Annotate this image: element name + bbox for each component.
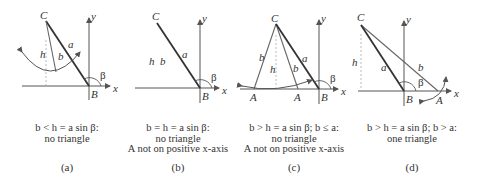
point-b-label: B (91, 88, 98, 100)
point-c-label: C (357, 11, 365, 23)
side-b-label: b (418, 61, 424, 73)
point-b-label: B (406, 93, 413, 105)
panel-label-a: (a) (61, 161, 73, 173)
point-a1-label: A (249, 91, 257, 103)
angle-beta-label: β (330, 72, 336, 84)
caption-c: b > h = a sin β; b ≤ a: no triangle A no… (244, 123, 344, 155)
panel-c: C B A A a b b h y x β (240, 12, 346, 104)
side-b2-label: b (293, 62, 299, 74)
side-a-label: a (302, 52, 308, 64)
side-b1-label: b (259, 51, 265, 63)
height-h-label: h (149, 55, 155, 67)
point-b-label: B (321, 91, 328, 103)
side-b-label: b (160, 55, 166, 67)
caption-line: b > h = a sin β; b > a: (367, 123, 457, 134)
point-c-label: C (152, 10, 160, 22)
panel-label-d: (d) (406, 161, 419, 173)
caption-line: b > h = a sin β; b ≤ a: (244, 123, 344, 134)
caption-line: no triangle (35, 134, 98, 145)
panel-label-b: (b) (172, 161, 185, 173)
caption-line: A not on positive x-axis (244, 144, 344, 155)
x-axis-label: x (453, 87, 459, 99)
side-b-right (276, 24, 298, 89)
swing-arc (22, 52, 80, 71)
side-b-left (254, 24, 276, 89)
triangle-cases-diagram: C B a b h y x β C B a b h y x β C B A A (0, 0, 482, 177)
x-axis-label: x (112, 82, 118, 94)
y-axis-label: y (201, 12, 207, 24)
x-axis-label: x (221, 84, 227, 96)
side-a-label: a (381, 61, 387, 73)
side-a (276, 24, 319, 89)
point-c-label: C (40, 9, 48, 21)
point-c-label: C (271, 12, 279, 24)
height-h-label: h (270, 63, 276, 75)
x-axis-label: x (340, 85, 346, 97)
caption-line: b = h = a sin β: (128, 123, 228, 134)
side-a-label: a (68, 38, 74, 50)
caption-d: b > h = a sin β; b > a: one triangle (367, 123, 457, 144)
angle-beta-label: β (100, 69, 106, 81)
swing-arc (242, 80, 312, 89)
panel-label-c: (c) (288, 161, 300, 173)
panel-b: C B a b h y x β (135, 10, 227, 103)
y-axis-label: y (405, 13, 411, 25)
angle-beta-label: β (418, 76, 424, 88)
panel-a: C B a b h y x β (22, 9, 118, 100)
height-h-label: h (40, 48, 46, 60)
caption-b: b = h = a sin β: no triangle A not on po… (128, 123, 228, 155)
angle-beta-label: β (211, 71, 217, 83)
side-a (361, 25, 404, 91)
caption-line: A not on positive x-axis (128, 144, 228, 155)
caption-a: b < h = a sin β: no triangle (35, 123, 98, 144)
caption-line: one triangle (367, 134, 457, 145)
height-h-label: h (352, 56, 358, 68)
point-b-label: B (202, 90, 209, 102)
side-a-label: a (182, 48, 188, 60)
y-axis-label: y (320, 12, 326, 24)
y-axis-label: y (90, 10, 96, 22)
side-b (361, 25, 438, 91)
point-a-label: A (435, 94, 443, 106)
caption-line: b < h = a sin β: (35, 123, 98, 134)
point-a2-label: A (293, 91, 301, 103)
side-b-label: b (58, 50, 64, 62)
panel-d: C B A a b h y x β (352, 11, 459, 106)
